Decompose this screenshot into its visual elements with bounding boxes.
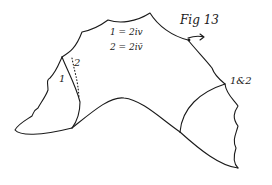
equation-1: 1 = 2iv <box>110 27 143 37</box>
figure-diagram: Fig 13 1 = 2iv 2 = 2iv̄ 1 2 1&2 <box>0 0 272 185</box>
region-2-label: 2 <box>73 57 80 68</box>
figure-title: Fig 13 <box>179 13 219 27</box>
left-lobe-edge <box>15 57 72 134</box>
region-1-label: 1 <box>59 73 65 84</box>
equation-2: 2 = 2iv̄ <box>109 42 143 52</box>
region-1-and-2-boundary <box>180 84 225 132</box>
right-lobe-lower-curve <box>180 132 238 168</box>
marker-dot <box>188 39 191 42</box>
right-lobe-scalloped-edge <box>225 84 238 168</box>
arrow-pointer <box>188 34 204 40</box>
region-1-and-2-label: 1&2 <box>230 75 252 86</box>
bottom-arch <box>72 98 180 132</box>
